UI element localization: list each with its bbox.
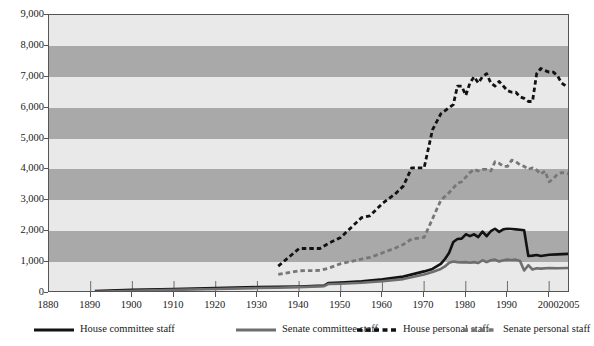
x-axis-tick bbox=[215, 292, 216, 297]
x-axis-tick-label: 2005 bbox=[559, 300, 580, 311]
legend-item-house-committee-staff[interactable]: House committee staff bbox=[34, 322, 175, 334]
legend-label: House committee staff bbox=[80, 323, 175, 334]
x-axis-tick-label: 1920 bbox=[204, 300, 225, 311]
x-axis-tick bbox=[256, 292, 257, 297]
x-axis-tick-label: 1970 bbox=[413, 300, 434, 311]
legend-line-swatch bbox=[357, 322, 397, 334]
x-axis-tick bbox=[90, 292, 91, 297]
x-axis-tick bbox=[131, 292, 132, 297]
x-axis-tick-label: 1900 bbox=[121, 300, 142, 311]
x-axis-tick bbox=[423, 292, 424, 297]
x-axis-tick-label: 1950 bbox=[329, 300, 350, 311]
x-axis-tick bbox=[465, 292, 466, 297]
x-axis-tick bbox=[548, 292, 549, 297]
x-axis-tick bbox=[298, 292, 299, 297]
legend-line-swatch bbox=[34, 322, 74, 334]
x-axis-tick-label: 2000 bbox=[538, 300, 559, 311]
chart-legend: House committee staffSenate committee st… bbox=[0, 320, 594, 342]
legend-line-swatch bbox=[236, 322, 276, 334]
x-axis-tick bbox=[173, 292, 174, 297]
x-axis-tick-label: 1930 bbox=[246, 300, 267, 311]
x-axis-tick-label: 1990 bbox=[496, 300, 517, 311]
x-axis-tick-label: 1890 bbox=[79, 300, 100, 311]
legend-label: Senate personal staff bbox=[503, 323, 590, 334]
x-axis-tick bbox=[340, 292, 341, 297]
x-axis-tick-label: 1880 bbox=[38, 300, 59, 311]
congressional-staff-line-chart: 9,0008,0007,0006,0005,0004,0003,0002,000… bbox=[0, 0, 594, 346]
x-axis-tick bbox=[381, 292, 382, 297]
legend-item-senate-personal-staff[interactable]: Senate personal staff bbox=[463, 322, 590, 334]
legend-line-swatch bbox=[463, 322, 497, 334]
x-axis-tick-label: 1910 bbox=[163, 300, 184, 311]
x-axis-tick-label: 1940 bbox=[288, 300, 309, 311]
x-axis-tick-label: 1960 bbox=[371, 300, 392, 311]
x-axis: 1880189019001910192019301940195019601970… bbox=[0, 0, 594, 346]
x-axis-tick bbox=[506, 292, 507, 297]
x-axis-tick-label: 1980 bbox=[454, 300, 475, 311]
